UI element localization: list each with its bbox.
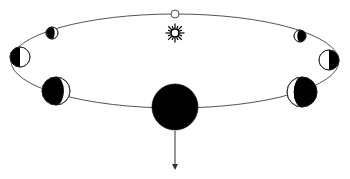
crescent-lower-left-icon bbox=[42, 77, 70, 105]
arrow-down-icon bbox=[172, 131, 178, 170]
quarter-right-icon bbox=[319, 50, 339, 70]
new-moon-icon bbox=[152, 84, 198, 130]
crescent-lower-right-icon bbox=[287, 77, 317, 107]
full-moon-icon bbox=[171, 10, 179, 18]
gibbous-upper-left-icon bbox=[46, 27, 58, 39]
lunar-phase-diagram bbox=[0, 0, 350, 179]
quarter-left-icon bbox=[10, 47, 30, 67]
sun-icon bbox=[166, 24, 185, 43]
gibbous-upper-right-icon bbox=[294, 30, 306, 42]
diagram-canvas bbox=[0, 0, 350, 179]
